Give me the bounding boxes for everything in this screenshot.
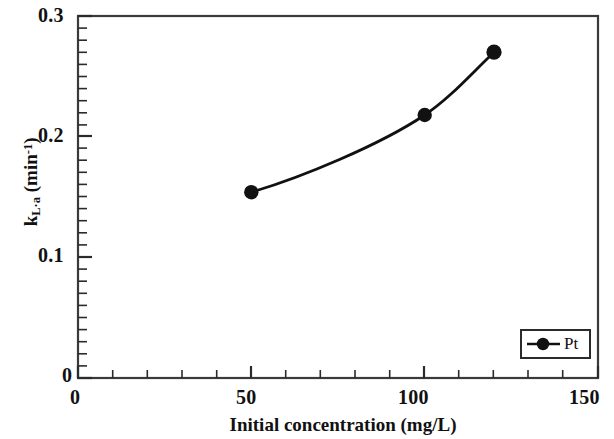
legend-entry-label: Pt — [564, 334, 578, 354]
plot-area-border — [78, 16, 598, 378]
y-axis-title: kL·a (min-1) — [20, 72, 44, 292]
y-axis-title-unit-exponent: -1 — [21, 144, 35, 154]
x-axis-title: Initial concentration (mg/L) — [0, 414, 614, 436]
y-axis-title-unit-close: ) — [20, 137, 41, 143]
x-tick-label-50: 50 — [236, 386, 256, 409]
chart-canvas — [0, 0, 614, 439]
data-point-50 — [244, 185, 258, 199]
data-point-100 — [418, 108, 432, 122]
y-axis-title-base: k — [20, 216, 41, 227]
x-tick-label-0: 0 — [70, 386, 80, 409]
legend-sample-marker — [537, 338, 549, 350]
y-axis-title-unit-open: (min — [20, 154, 41, 197]
x-tick-label-150: 150 — [569, 386, 600, 409]
plot-frame — [78, 16, 598, 378]
y-tick-label-0-3: 0.3 — [38, 4, 64, 27]
y-axis-title-subscript: L·a — [29, 197, 43, 216]
figure-chart-kla-vs-concentration: 0.3 0.2 0.1 0 0 50 100 150 Initial conce… — [0, 0, 614, 439]
y-tick-label-0: 0 — [62, 364, 72, 387]
data-point-120 — [486, 45, 501, 60]
x-axis-title-text: Initial concentration (mg/L) — [230, 414, 457, 435]
x-tick-label-100: 100 — [398, 386, 429, 409]
legend-box — [521, 330, 590, 358]
